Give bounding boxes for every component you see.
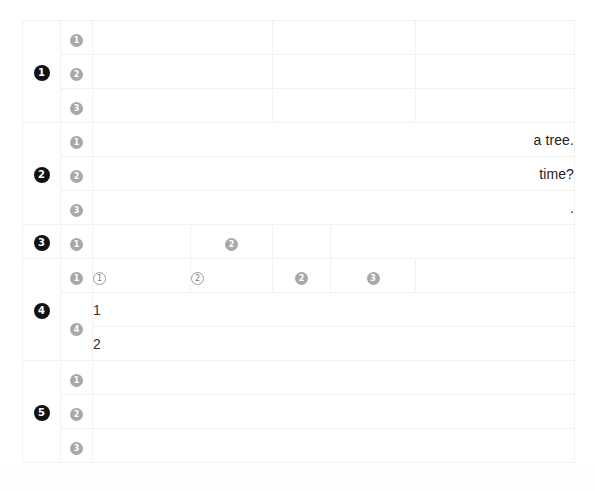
table-row[interactable]: 2: [23, 55, 575, 89]
section-marker-3: 3: [23, 225, 61, 259]
row-marker-4-1: 1: [61, 259, 93, 293]
table-row[interactable]: 3 .: [23, 191, 575, 225]
marker-outline-2: 2: [191, 272, 204, 285]
marker-gray-1: 1: [70, 136, 83, 149]
marker-gray-1: 1: [70, 34, 83, 47]
row-marker-1-1: 1: [61, 21, 93, 55]
cell-s1r3-b[interactable]: [273, 89, 416, 123]
row-marker-3-2: 2: [191, 225, 273, 259]
table-row[interactable]: 2 time?: [23, 157, 575, 191]
section-marker-4: 4: [23, 259, 61, 361]
row-marker-2-2: 2: [61, 157, 93, 191]
marker-black-4: 4: [34, 303, 50, 319]
cell-s1r1-c[interactable]: [416, 21, 575, 55]
marker-gray-4: 4: [70, 323, 83, 336]
table-row[interactable]: 1 1: [23, 21, 575, 55]
table-row[interactable]: 2: [23, 395, 575, 429]
cell-s4-opt-2[interactable]: 2: [191, 259, 273, 293]
marker-gray-2: 2: [70, 408, 83, 421]
cell-s5r2[interactable]: [93, 395, 575, 429]
marker-black-5: 5: [34, 405, 50, 421]
cell-s1r2-b[interactable]: [273, 55, 416, 89]
row-marker-4-3: 3: [331, 259, 416, 293]
section-marker-2: 2: [23, 123, 61, 225]
marker-gray-1: 1: [70, 374, 83, 387]
table-row[interactable]: 4 1: [23, 293, 575, 327]
marker-outline-1: 1: [93, 272, 106, 285]
marker-black-1: 1: [34, 65, 50, 81]
row-marker-2-1: 1: [61, 123, 93, 157]
cell-s3r2-b[interactable]: [331, 225, 575, 259]
cell-s1r1-b[interactable]: [273, 21, 416, 55]
table-row[interactable]: 5 1: [23, 361, 575, 395]
row-marker-5-1: 1: [61, 361, 93, 395]
cell-s1r1-a[interactable]: [93, 21, 273, 55]
scrollbar-track[interactable]: [583, 262, 593, 491]
row-marker-1-3: 3: [61, 89, 93, 123]
marker-gray-2: 2: [225, 238, 238, 251]
cell-s1r2-c[interactable]: [416, 55, 575, 89]
table-row[interactable]: 3: [23, 429, 575, 463]
cell-s4-sub-1[interactable]: 1: [93, 293, 575, 327]
cell-s3r2-a[interactable]: [273, 225, 331, 259]
row-marker-3-1: 1: [61, 225, 93, 259]
cell-s2r3-text[interactable]: .: [93, 191, 575, 225]
row-marker-4-4: 4: [61, 293, 93, 361]
cell-s1r3-a[interactable]: [93, 89, 273, 123]
page-backdrop: [0, 466, 595, 491]
marker-black-3: 3: [34, 235, 50, 251]
cell-s1r3-c[interactable]: [416, 89, 575, 123]
outline-table: 1 1 2 3: [22, 20, 575, 463]
section-marker-1: 1: [23, 21, 61, 123]
cell-s5r1[interactable]: [93, 361, 575, 395]
cell-s2r1-text[interactable]: a tree.: [93, 123, 575, 157]
table-row[interactable]: 3: [23, 89, 575, 123]
cell-s4-opt-1[interactable]: 1: [93, 259, 191, 293]
cell-s1r2-a[interactable]: [93, 55, 273, 89]
table-row[interactable]: 4 1 1 2 2 3: [23, 259, 575, 293]
page-root: 1 1 2 3: [0, 0, 595, 491]
marker-gray-1: 1: [70, 272, 83, 285]
marker-black-2: 2: [34, 167, 50, 183]
cell-s3r1-a[interactable]: [93, 225, 191, 259]
marker-gray-1: 1: [70, 238, 83, 251]
row-marker-5-2: 2: [61, 395, 93, 429]
marker-gray-2: 2: [70, 68, 83, 81]
marker-gray-2: 2: [295, 272, 308, 285]
row-marker-1-2: 2: [61, 55, 93, 89]
marker-gray-3: 3: [70, 442, 83, 455]
marker-gray-2: 2: [70, 170, 83, 183]
row-marker-5-3: 3: [61, 429, 93, 463]
row-marker-4-2: 2: [273, 259, 331, 293]
cell-s4-sub-2[interactable]: 2: [93, 327, 575, 361]
marker-gray-3: 3: [70, 102, 83, 115]
section-marker-5: 5: [23, 361, 61, 463]
marker-gray-3: 3: [70, 204, 83, 217]
cell-s4-tail[interactable]: [416, 259, 575, 293]
cell-s5r3[interactable]: [93, 429, 575, 463]
marker-gray-3: 3: [367, 272, 380, 285]
table-row[interactable]: 3 1 2: [23, 225, 575, 259]
table-row[interactable]: 2: [23, 327, 575, 361]
cell-s2r2-text[interactable]: time?: [93, 157, 575, 191]
table-row[interactable]: 2 1 a tree.: [23, 123, 575, 157]
row-marker-2-3: 3: [61, 191, 93, 225]
